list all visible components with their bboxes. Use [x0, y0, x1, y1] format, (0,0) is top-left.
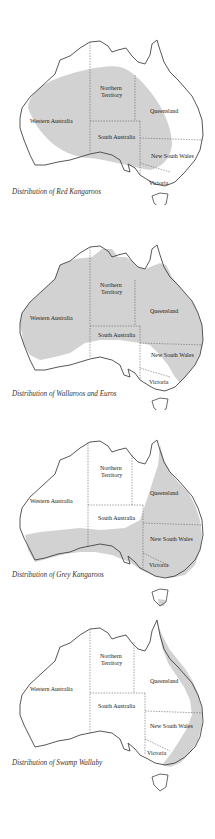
- label-western-australia: Western Australia: [30, 118, 73, 125]
- label-western-australia: Western Australia: [30, 498, 73, 505]
- label-queensland: Queensland: [150, 490, 178, 497]
- tasmania: [152, 398, 168, 410]
- range-area: [157, 623, 202, 767]
- label-northern: Northern: [100, 465, 122, 472]
- map-caption: Distribution of Grey Kangaroos: [12, 571, 104, 579]
- map-red-kangaroos: Western Australia Northern Territory Que…: [0, 0, 215, 205]
- label-south-australia: South Australia: [98, 332, 135, 339]
- label-western-australia: Western Australia: [30, 315, 73, 322]
- label-victoria: Victoria: [147, 750, 166, 757]
- label-new-south-wales: New South Wales: [151, 352, 194, 359]
- label-south-australia: South Australia: [98, 703, 135, 710]
- map-caption: Distribution of Wallaroos and Euros: [12, 390, 117, 398]
- label-western-australia: Western Australia: [30, 686, 73, 693]
- label-victoria: Victoria: [149, 180, 168, 187]
- map-swamp-wallaby: Western Australia Northern Territory Que…: [0, 615, 215, 839]
- label-queensland: Queensland: [150, 108, 178, 115]
- label-victoria: Victoria: [149, 379, 168, 386]
- label-territory: Territory: [101, 472, 122, 479]
- label-territory: Territory: [101, 92, 122, 99]
- map-wallaroos-euros: Western Australia Northern Territory Que…: [0, 205, 215, 410]
- tasmania: [152, 774, 168, 791]
- label-south-australia: South Australia: [98, 134, 135, 141]
- label-victoria: Victoria: [149, 562, 168, 569]
- map-caption: Distribution of Swamp Wallaby: [12, 759, 102, 767]
- label-queensland: Queensland: [150, 308, 178, 315]
- map-grey-kangaroos: Western Australia Northern Territory Que…: [0, 410, 215, 620]
- label-northern: Northern: [100, 85, 122, 92]
- map-caption: Distribution of Red Kangaroos: [12, 188, 101, 196]
- label-south-australia: South Australia: [98, 515, 135, 522]
- label-territory: Territory: [101, 289, 122, 296]
- australia-map: [0, 0, 215, 205]
- label-new-south-wales: New South Wales: [150, 723, 193, 730]
- label-new-south-wales: New South Wales: [151, 153, 194, 160]
- label-queensland: Queensland: [150, 678, 178, 685]
- australia-map: [0, 205, 215, 410]
- label-northern: Northern: [100, 282, 122, 289]
- label-new-south-wales: New South Wales: [150, 536, 193, 543]
- label-territory: Territory: [101, 660, 122, 667]
- label-northern: Northern: [100, 653, 122, 660]
- tasmania: [152, 193, 168, 205]
